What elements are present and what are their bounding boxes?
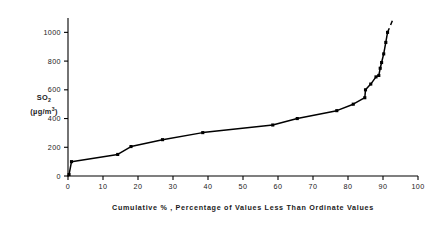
data-point-marker (384, 41, 387, 44)
chart-background (0, 0, 438, 226)
data-point-marker (382, 52, 385, 55)
y-tick-label: 200 (48, 143, 61, 152)
data-point-marker (296, 117, 299, 120)
x-tick-label: 50 (239, 182, 248, 191)
data-point-marker (116, 153, 119, 156)
data-point-marker (369, 83, 372, 86)
x-axis-title: Cumulative % , Percentage of Values Less… (112, 203, 374, 212)
y-tick-label: 0 (57, 172, 61, 181)
x-tick-label: 20 (134, 182, 143, 191)
y-tick-label: 1000 (43, 28, 61, 37)
data-point-marker (363, 96, 366, 99)
x-tick-label: 100 (411, 182, 424, 191)
x-tick-label: 60 (274, 182, 283, 191)
x-tick-label: 70 (309, 182, 318, 191)
data-point-marker (380, 61, 383, 64)
data-point-marker (377, 74, 380, 77)
x-tick-label: 30 (169, 182, 178, 191)
data-point-marker (352, 103, 355, 106)
y-tick-label: 800 (48, 57, 61, 66)
data-point-marker (201, 131, 204, 134)
data-point-marker (364, 88, 367, 91)
data-point-marker (129, 145, 132, 148)
data-point-marker (271, 123, 274, 126)
x-tick-label: 0 (66, 182, 70, 191)
data-point-marker (68, 173, 71, 176)
y-tick-label: 600 (48, 85, 61, 94)
data-point-marker (161, 138, 164, 141)
chart-figure: 02004006008001000 0102030405060708090100… (0, 0, 438, 226)
cumulative-frequency-chart: 02004006008001000 0102030405060708090100… (0, 0, 438, 226)
data-point-marker (379, 67, 382, 70)
data-point-marker (386, 31, 389, 34)
x-tick-label: 10 (99, 182, 108, 191)
data-point-marker (70, 160, 73, 163)
x-tick-label: 90 (379, 182, 388, 191)
x-tick-label: 80 (344, 182, 353, 191)
data-point-marker (374, 75, 377, 78)
x-tick-label: 40 (204, 182, 213, 191)
data-point-marker (335, 109, 338, 112)
